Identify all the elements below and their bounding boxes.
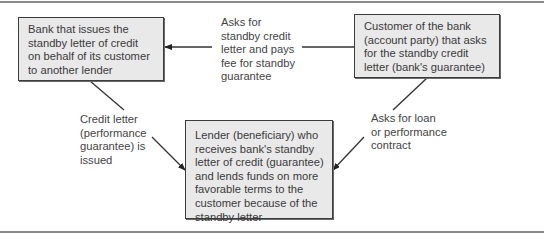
customer-node-line: (account party) that asks: [364, 34, 490, 48]
customer-to-bank-label: Asks for standby credit letter and pays …: [221, 16, 295, 84]
lender-node-line: letter of credit (guarantee): [195, 156, 323, 170]
arrow-label-to-lender-right: [333, 137, 364, 170]
bank-node-line: to another lender: [28, 64, 154, 78]
customer-node-line: for the standby credit: [364, 47, 490, 61]
bank-to-lender-label: Credit letter (performance guarantee) is…: [80, 113, 147, 167]
lender-node: Lender (beneficiary) who receives bank's…: [185, 120, 333, 219]
lender-node-line: standby letter: [195, 211, 323, 225]
customer-node: Customer of the bank (account party) tha…: [354, 14, 500, 78]
lender-node-line: Lender (beneficiary) who: [195, 129, 323, 143]
lender-node-line: favorable terms to the: [195, 183, 323, 197]
bank-node-line: standby letter of credit: [28, 37, 154, 51]
edge-label-line: guarantee) is: [80, 140, 147, 154]
customer-node-line: letter (bank's guarantee): [364, 61, 490, 75]
lender-node-line: and lends funds on more: [195, 170, 323, 184]
edge-label-line: standby credit: [221, 30, 295, 44]
edge-label-line: contract: [371, 139, 447, 153]
edge-label-line: letter and pays: [221, 43, 295, 57]
edge-label-line: issued: [80, 154, 147, 168]
edge-label-line: Asks for: [221, 16, 295, 30]
lender-node-line: receives bank's standby: [195, 143, 323, 157]
edge-label-line: Asks for loan: [371, 112, 447, 126]
line-bank-to-label: [90, 81, 124, 110]
edge-label-line: fee for standby: [221, 57, 295, 71]
bank-node: Bank that issues the standby letter of c…: [18, 17, 164, 81]
edge-label-line: (performance: [80, 127, 147, 141]
edge-label-line: guarantee: [221, 70, 295, 84]
line-customer-to-label: [393, 78, 427, 110]
edge-label-line: Credit letter: [80, 113, 147, 127]
arrow-label-to-lender: [152, 137, 185, 170]
bank-node-line: Bank that issues the: [28, 23, 154, 37]
customer-to-lender-label: Asks for loan or performance contract: [371, 112, 447, 153]
bank-node-line: on behalf of its customer: [28, 50, 154, 64]
edge-label-line: or performance: [371, 126, 447, 140]
customer-node-line: Customer of the bank: [364, 20, 490, 34]
lender-node-line: customer because of the: [195, 197, 323, 211]
